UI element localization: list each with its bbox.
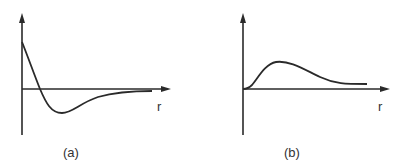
curve-b	[243, 62, 367, 89]
curve-a	[22, 42, 152, 113]
caption-b: (b)	[284, 145, 300, 160]
caption-a: (a)	[63, 145, 79, 160]
x-axis-arrow-b-icon	[380, 86, 390, 92]
x-axis-label-a: r	[157, 99, 161, 114]
x-axis-arrow-a-icon	[161, 86, 171, 92]
x-axis-label-b: r	[378, 99, 382, 114]
diagram-canvas	[0, 0, 405, 167]
panel-b	[240, 13, 390, 135]
panel-a	[19, 13, 171, 135]
y-axis-arrow-a-icon	[19, 13, 25, 23]
y-axis-arrow-b-icon	[240, 13, 246, 23]
